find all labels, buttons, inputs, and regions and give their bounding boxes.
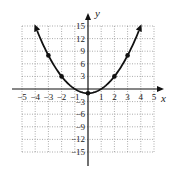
data-point (125, 53, 130, 58)
x-tick-label: −2 (57, 92, 67, 102)
x-tick-label: −5 (17, 92, 27, 102)
parabola-chart: −5−4−3−2−1123451512963−3−6−9−12−15 x y (0, 0, 176, 177)
y-tick-label: 15 (76, 21, 86, 31)
x-tick-label: 1 (99, 92, 104, 102)
y-tick-label: −15 (71, 147, 86, 157)
y-tick-label: 6 (81, 59, 86, 69)
data-point (112, 74, 117, 79)
data-point (86, 91, 91, 96)
y-axis-arrow-icon (85, 13, 91, 20)
y-tick-label: −12 (71, 134, 85, 144)
axes (12, 13, 164, 166)
y-tick-label: 12 (76, 34, 85, 44)
curve-arrow-icon (136, 24, 142, 32)
y-tick-label: −9 (75, 122, 85, 132)
curve-arrow-icon (34, 24, 40, 32)
x-tick-label: 5 (152, 92, 157, 102)
y-tick-label: −6 (75, 109, 85, 119)
x-tick-label: 2 (112, 92, 117, 102)
data-point (46, 53, 51, 58)
x-tick-label: −3 (44, 92, 54, 102)
x-tick-label: 4 (139, 92, 144, 102)
y-tick-label: −3 (75, 97, 85, 107)
y-tick-label: 9 (81, 46, 86, 56)
y-axis-label: y (94, 7, 100, 19)
x-tick-label: −4 (30, 92, 40, 102)
x-tick-label: 3 (125, 92, 130, 102)
data-point (59, 74, 64, 79)
y-tick-label: 3 (81, 71, 86, 81)
x-axis-label: x (160, 92, 166, 104)
